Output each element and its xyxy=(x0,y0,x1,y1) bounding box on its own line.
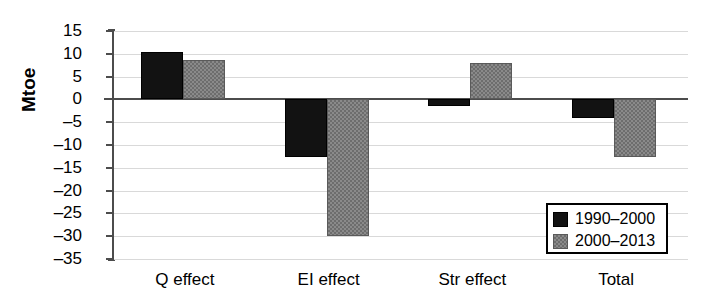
gridline xyxy=(113,145,688,146)
gridline xyxy=(113,168,688,169)
legend-label-2000-2013: 2000–2013 xyxy=(575,233,655,249)
gridline xyxy=(113,54,688,55)
legend-label-1990-2000: 1990–2000 xyxy=(575,211,655,227)
legend-swatch-1990-2000 xyxy=(553,212,568,227)
y-axis-label: –15 xyxy=(36,159,82,176)
y-axis-tick xyxy=(106,190,114,192)
legend-swatch-2000-2013 xyxy=(553,234,568,249)
y-axis-label: 0 xyxy=(36,90,82,107)
y-axis-label: 10 xyxy=(36,45,82,62)
y-axis-tick xyxy=(106,53,114,55)
y-axis-label: –35 xyxy=(36,250,82,267)
y-axis-label: –5 xyxy=(36,113,82,130)
y-axis-label: –20 xyxy=(36,182,82,199)
bar xyxy=(614,99,656,157)
y-axis-label: –10 xyxy=(36,136,82,153)
bar xyxy=(285,99,327,157)
y-axis-tick xyxy=(106,30,114,32)
bar xyxy=(572,99,614,117)
x-axis-label: Str effect xyxy=(401,270,545,290)
bar xyxy=(428,99,470,106)
y-axis-tick xyxy=(106,167,114,169)
y-axis-label: 5 xyxy=(36,68,82,85)
legend-item: 1990–2000 xyxy=(553,208,661,230)
y-axis-tick xyxy=(106,76,114,78)
bar xyxy=(141,52,183,100)
x-axis-label: EI effect xyxy=(257,270,401,290)
y-axis-tick xyxy=(106,235,114,237)
x-axis-label: Total xyxy=(544,270,688,290)
legend-item: 2000–2013 xyxy=(553,230,661,252)
bar xyxy=(327,99,369,235)
y-axis-tick xyxy=(106,121,114,123)
y-axis-label: –30 xyxy=(36,227,82,244)
x-axis-label: Q effect xyxy=(113,270,257,290)
y-axis-tick xyxy=(106,212,114,214)
gridline xyxy=(113,259,688,260)
y-axis-label: –25 xyxy=(36,204,82,221)
chart-legend: 1990–2000 2000–2013 xyxy=(546,203,668,254)
gridline xyxy=(113,31,688,32)
y-axis-label: 15 xyxy=(36,22,82,39)
gridline xyxy=(113,191,688,192)
bar xyxy=(470,63,512,99)
y-axis-tick xyxy=(106,258,114,260)
bar-chart: Mtoe 151050–5–10–15–20–25–30–35 1990–200… xyxy=(0,0,712,305)
bar xyxy=(183,60,225,99)
gridline xyxy=(113,122,688,123)
y-axis-tick xyxy=(106,144,114,146)
y-axis-tick xyxy=(104,98,115,100)
